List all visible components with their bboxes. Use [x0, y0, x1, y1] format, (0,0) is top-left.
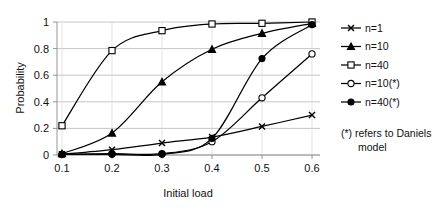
y-axis-title: Probability: [14, 62, 26, 114]
probability-vs-initial-load-chart: 00.20.40.60.81 0.10.20.30.40.50.6 Probab…: [0, 0, 441, 212]
legend-marker: [348, 99, 354, 105]
x-tick-label: 0.5: [254, 162, 269, 174]
legend-marker: [348, 62, 354, 68]
data-point: [109, 151, 115, 157]
data-point: [59, 151, 65, 157]
y-tick-label: 1: [43, 16, 49, 28]
data-point: [59, 123, 65, 129]
data-point: [209, 21, 215, 27]
data-point: [109, 47, 115, 53]
y-tick-label: 0.2: [34, 122, 49, 134]
x-tick-label: 0.4: [204, 162, 219, 174]
legend-label: n=10: [365, 40, 389, 52]
legend-label: n=40: [365, 59, 389, 71]
x-tick-label: 0.1: [54, 162, 69, 174]
legend-note-line-2: model: [358, 141, 387, 153]
x-tick-label: 0.6: [304, 162, 319, 174]
legend-note-line-1: (*) refers to Daniels: [341, 127, 431, 139]
data-point: [159, 28, 165, 34]
legend-label: n=10(*): [365, 77, 400, 89]
legend-label: n=40(*): [365, 96, 400, 108]
data-point: [309, 22, 315, 28]
data-point: [159, 151, 165, 157]
data-point: [259, 95, 265, 101]
data-point: [259, 20, 265, 26]
x-axis-title: Initial load: [163, 187, 213, 199]
y-tick-label: 0.4: [34, 96, 49, 108]
data-point: [309, 51, 315, 57]
x-tick-label: 0.3: [154, 162, 169, 174]
x-tick-label: 0.2: [104, 162, 119, 174]
legend-label: n=1: [365, 22, 383, 34]
legend-marker: [348, 80, 354, 86]
y-tick-label: 0.6: [34, 69, 49, 81]
data-point: [209, 135, 215, 141]
y-tick-label: 0.8: [34, 43, 49, 55]
y-tick-label: 0: [43, 149, 49, 161]
chart-figure: 00.20.40.60.81 0.10.20.30.40.50.6 Probab…: [0, 0, 441, 212]
data-point: [259, 56, 265, 62]
